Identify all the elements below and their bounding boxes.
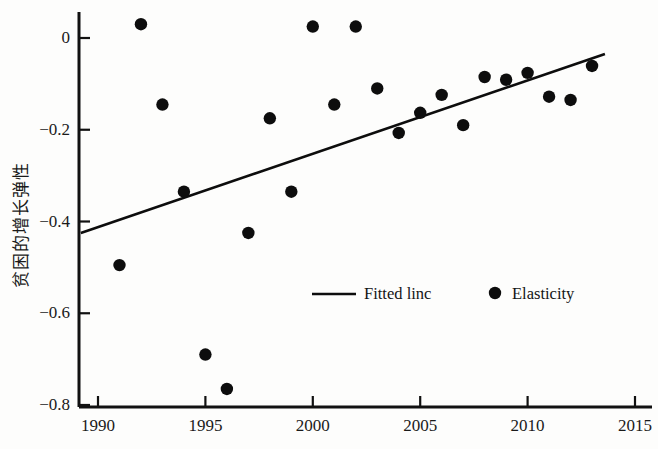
x-tick-label: 2000: [296, 416, 330, 436]
data-point-marker[interactable]: [371, 82, 383, 94]
data-point-marker[interactable]: [135, 18, 147, 30]
data-point-marker[interactable]: [221, 383, 233, 395]
legend-item-label: Elasticity: [512, 284, 574, 304]
data-point-marker[interactable]: [328, 98, 340, 110]
x-tick-label: 2010: [511, 416, 545, 436]
x-tick-label: 2005: [403, 416, 437, 436]
scatter-plot-svg: [0, 0, 658, 449]
y-tick-label: −0.4: [39, 212, 70, 232]
data-point-marker[interactable]: [543, 91, 555, 103]
data-point-marker[interactable]: [350, 20, 362, 32]
data-point-marker[interactable]: [199, 348, 211, 360]
y-tick-label: −0.8: [39, 395, 70, 415]
data-points-group: [113, 18, 598, 395]
data-point-marker[interactable]: [156, 98, 168, 110]
x-tick-label: 1990: [81, 416, 115, 436]
y-tick-label: −0.6: [39, 303, 70, 323]
fitted-trend-line: [81, 54, 605, 233]
data-point-marker[interactable]: [478, 71, 490, 83]
data-point-marker[interactable]: [113, 259, 125, 271]
data-point-marker[interactable]: [178, 185, 190, 197]
y-tick-label: −0.2: [39, 120, 70, 140]
data-point-marker[interactable]: [435, 89, 447, 101]
y-tick-label: 0: [62, 28, 71, 48]
x-tick-label: 2015: [618, 416, 652, 436]
axes-group: [79, 12, 652, 407]
data-point-marker[interactable]: [242, 227, 254, 239]
legend-dot-swatch: [489, 287, 501, 299]
data-point-marker[interactable]: [500, 74, 512, 86]
data-point-marker[interactable]: [521, 67, 533, 79]
data-point-marker[interactable]: [264, 112, 276, 124]
data-point-marker[interactable]: [285, 185, 297, 197]
legend-item-label: Fitted linc: [364, 284, 431, 304]
x-tick-label: 1995: [188, 416, 222, 436]
data-point-marker[interactable]: [393, 127, 405, 139]
data-point-marker[interactable]: [307, 20, 319, 32]
data-point-marker[interactable]: [414, 107, 426, 119]
data-point-marker[interactable]: [564, 94, 576, 106]
chart-figure: 贫困的增长弹性 0−0.2−0.4−0.6−0.8199019952000200…: [0, 0, 658, 449]
data-point-marker[interactable]: [457, 119, 469, 131]
fitted-line-group: [81, 54, 605, 233]
data-point-marker[interactable]: [586, 60, 598, 72]
